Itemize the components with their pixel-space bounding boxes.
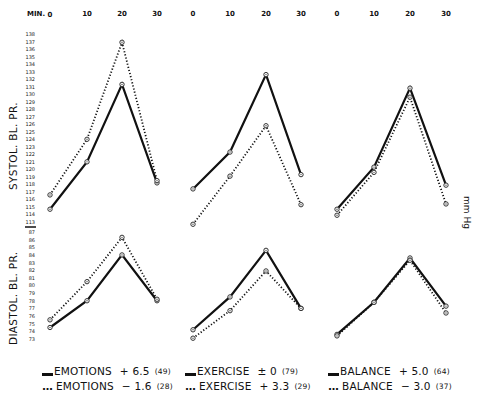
emotions-systolic-dotted-line xyxy=(50,42,157,195)
y-tick-label: 124 xyxy=(25,136,35,142)
y-tick-label: 119 xyxy=(25,174,35,180)
diastolic-axis-label: DIASTOL. BL. PR. xyxy=(7,252,19,345)
legend-count: (29) xyxy=(294,379,310,394)
legend-name: BALANCE xyxy=(340,364,391,379)
legend-emotions: EMOTIONS + 6.5 (49) ... EMOTIONS − 1.6 (… xyxy=(42,364,173,394)
legend-entry-dotted: ... EMOTIONS − 1.6 (28) xyxy=(42,379,173,394)
legend-entry-solid: EMOTIONS + 6.5 (49) xyxy=(42,364,173,379)
y-tick-label: 78 xyxy=(29,298,35,304)
legend-entry-solid: BALANCE + 5.0 (64) xyxy=(328,364,452,379)
x-axis-label: MIN. xyxy=(27,10,45,18)
legend-entry-solid: EXERCISE ± 0 (79) xyxy=(185,364,311,379)
data-point-center xyxy=(445,312,446,313)
y-tick-label: 82 xyxy=(29,267,35,273)
systolic-axis-label: SYSTOL. BL. PR. xyxy=(7,102,19,190)
y-tick-label: 115 xyxy=(25,204,35,210)
balance-diastolic-dotted-line xyxy=(337,260,446,336)
x-tick-label: 20 xyxy=(261,10,271,18)
y-tick-label: 132 xyxy=(25,76,35,82)
solid-line-icon xyxy=(328,373,339,376)
y-tick-label: 86 xyxy=(29,237,35,243)
data-point-center xyxy=(300,308,301,309)
y-tick-label: 134 xyxy=(25,61,35,67)
legend-name: EMOTIONS xyxy=(56,379,114,394)
systolic-axis-ticks: 1131141151161171181191201211221231241251… xyxy=(25,31,35,225)
y-tick-label: 117 xyxy=(25,189,35,195)
y-tick-label: 79 xyxy=(29,290,35,296)
legend-count: (49) xyxy=(155,364,171,379)
legend-exercise: EXERCISE ± 0 (79) ... EXERCISE + 3.3 (29… xyxy=(185,364,311,394)
data-point-center xyxy=(229,151,230,152)
data-point-center xyxy=(229,310,230,311)
emotions-systolic-solid-line xyxy=(50,84,157,209)
data-point-center xyxy=(121,237,122,238)
y-tick-label: 116 xyxy=(25,196,35,202)
solid-line-icon xyxy=(185,373,196,376)
x-tick-label: 0 xyxy=(335,10,340,18)
data-point-center xyxy=(300,174,301,175)
balance-diastolic-solid-line xyxy=(337,258,446,334)
data-point-center xyxy=(49,209,50,210)
data-point-center xyxy=(156,299,157,300)
y-tick-label: 126 xyxy=(25,121,35,127)
y-tick-label: 127 xyxy=(25,114,35,120)
legend-name: EXERCISE xyxy=(197,364,250,379)
data-point-center xyxy=(192,188,193,189)
legend-value: − 1.6 xyxy=(122,379,152,394)
y-tick-label: 76 xyxy=(29,313,35,319)
y-tick-label: 133 xyxy=(25,69,35,75)
x-tick-label: 10 xyxy=(369,10,379,18)
data-series xyxy=(48,40,448,340)
data-point-center xyxy=(86,281,87,282)
x-tick-label: 30 xyxy=(296,10,306,18)
y-tick-label: 118 xyxy=(25,181,35,187)
data-point-center xyxy=(373,172,374,173)
y-tick-label: 120 xyxy=(25,166,35,172)
x-tick-label: 30 xyxy=(441,10,451,18)
data-point-center xyxy=(373,166,374,167)
data-point-center xyxy=(265,270,266,271)
data-point-center xyxy=(373,302,374,303)
data-point-center xyxy=(336,209,337,210)
data-point-center xyxy=(229,175,230,176)
data-point-center xyxy=(86,161,87,162)
x-tick-label: 20 xyxy=(117,10,127,18)
data-point-center xyxy=(265,74,266,75)
y-tick-label: 75 xyxy=(29,321,35,327)
y-tick-label: 135 xyxy=(25,54,35,60)
legend-count: (28) xyxy=(157,379,173,394)
data-point-center xyxy=(192,329,193,330)
y-tick-label: 123 xyxy=(25,144,35,150)
data-point-center xyxy=(445,184,446,185)
x-tick-label: 20 xyxy=(405,10,415,18)
y-tick-label: 136 xyxy=(25,46,35,52)
data-point-center xyxy=(156,180,157,181)
data-point-center xyxy=(192,224,193,225)
data-point-center xyxy=(121,84,122,85)
legend-value: + 5.0 xyxy=(399,364,429,379)
dotted-line-icon: ... xyxy=(185,379,198,394)
x-tick-label: 10 xyxy=(225,10,235,18)
x-tick-label: 30 xyxy=(152,10,162,18)
legend-count: (64) xyxy=(434,364,450,379)
data-point-center xyxy=(49,319,50,320)
y-tick-label: 130 xyxy=(25,91,35,97)
data-point-center xyxy=(86,139,87,140)
y-tick-label: 85 xyxy=(29,244,35,250)
legend-value: − 3.0 xyxy=(401,379,431,394)
y-tick-label: 83 xyxy=(29,260,35,266)
data-point-center xyxy=(409,260,410,261)
data-point-center xyxy=(121,42,122,43)
solid-line-icon xyxy=(42,373,53,376)
legend-count: (37) xyxy=(436,379,452,394)
emotions-diastolic-solid-line xyxy=(50,255,157,328)
legend-balance: BALANCE + 5.0 (64) ... BALANCE − 3.0 (37… xyxy=(328,364,452,394)
y-tick-label: 129 xyxy=(25,99,35,105)
y-tick-label: 137 xyxy=(25,39,35,45)
unit-label: mm Hg xyxy=(462,196,472,229)
y-tick-label: 122 xyxy=(25,151,35,157)
y-tick-label: 138 xyxy=(25,31,35,37)
data-point-center xyxy=(86,300,87,301)
y-tick-label: 128 xyxy=(25,106,35,112)
y-tick-label: 114 xyxy=(25,211,35,217)
